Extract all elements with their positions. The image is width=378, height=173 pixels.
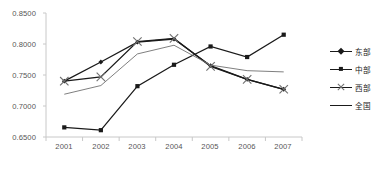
square-marker-icon [339,67,343,71]
legend-swatch-square [330,63,352,75]
legend-label: 全国 [355,100,371,111]
legend-item-west[interactable]: 西部 [330,78,378,96]
diamond-marker-icon [338,48,344,54]
x-axis-tick-label: 2001 [55,142,72,151]
line-chart: 0.8500 0.8000 0.7500 0.7000 0.6500 2001 … [0,0,378,173]
x-axis-tick-label: 2007 [274,142,291,151]
legend-swatch-cross [330,81,352,93]
legend-item-east[interactable]: 东部 [330,42,378,60]
chart-legend: 东部 中部 西部 全国 [330,42,378,114]
x-axis-tick-label: 2005 [201,142,218,151]
x-axis-tick-label: 2004 [165,142,182,151]
x-axis-tick-label: 2006 [238,142,255,151]
x-axis-labels: 2001 2002 2003 2004 2005 2006 2007 [46,142,302,158]
legend-item-national[interactable]: 全国 [330,96,378,114]
legend-label: 西部 [355,82,371,93]
x-axis-tick-label: 2003 [128,142,145,151]
legend-label: 中部 [355,64,371,75]
legend-swatch-line [330,99,352,111]
legend-label: 东部 [355,46,371,57]
x-axis-tick-label: 2002 [92,142,109,151]
legend-swatch-diamond [330,45,352,57]
cross-marker-icon [337,83,346,92]
legend-item-central[interactable]: 中部 [330,60,378,78]
